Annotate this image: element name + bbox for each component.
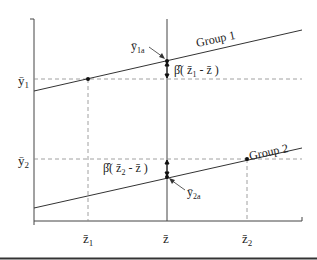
z-label: z̄ bbox=[163, 231, 169, 246]
beta-bottom-label: β̂( z̄2 - z̄ ) bbox=[103, 161, 148, 177]
y2a-label: ȳ2a bbox=[187, 185, 201, 201]
z1-label: z̄1 bbox=[83, 231, 93, 248]
beta-arrow-bottom bbox=[165, 160, 169, 176]
y1-label: ȳ1 bbox=[18, 73, 29, 90]
group2-label: Group 2 bbox=[248, 141, 290, 163]
group2-mean-point bbox=[245, 157, 249, 161]
z2-label: z̄2 bbox=[242, 231, 252, 248]
y1a-label: ȳ1a bbox=[131, 39, 145, 55]
beta-arrow-top bbox=[165, 62, 169, 78]
adjusted-means-diagram: ȳ1 ȳ2 z̄1 z̄ z̄2 Group 1 Group 2 ȳ1a β̂(… bbox=[0, 0, 317, 260]
y2-label: ȳ2 bbox=[18, 153, 29, 170]
beta-top-label: β̂( z̄1 - z̄ ) bbox=[174, 63, 219, 79]
group1-mean-point bbox=[86, 77, 90, 81]
